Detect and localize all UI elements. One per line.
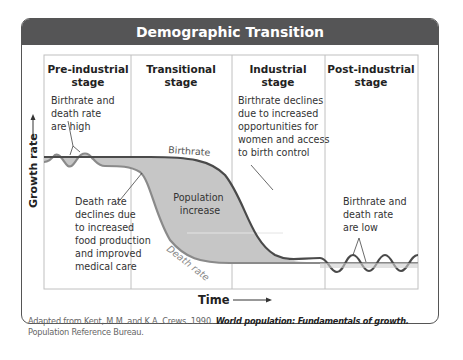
- annotation-birth-decline: Birthrate declines due to increased oppo…: [238, 95, 333, 158]
- annotation-death-decline: Death rate declines due to increased foo…: [75, 196, 154, 272]
- demographic-transition-diagram: Pre-industrialstage Transitionalstage In…: [0, 0, 463, 360]
- x-axis-arrowhead-icon: [266, 298, 272, 303]
- stage-header-industrial: Industrialstage: [249, 63, 306, 88]
- y-axis-label: Growth rate: [27, 133, 40, 208]
- pointer-line: [353, 238, 366, 262]
- post-industrial-band: [320, 263, 418, 268]
- caption-title: World population: Fundamentals of growth…: [216, 316, 409, 326]
- stage-header-transitional: Transitionalstage: [146, 63, 216, 88]
- pointer-line: [70, 146, 73, 155]
- caption-suffix: Population Reference Bureau.: [28, 327, 144, 337]
- source-caption: Adapted from Kent, M.M. and K.A. Crews. …: [28, 316, 428, 338]
- y-axis-arrowhead-icon: [31, 114, 36, 120]
- annotation-post-industrial: Birthrate and death rate are low: [343, 196, 410, 233]
- stage-header-pre-industrial: Pre-industrialstage: [47, 63, 128, 88]
- x-axis-label: Time: [198, 293, 230, 307]
- pointer-line: [251, 165, 273, 190]
- label-birthrate: Birthrate: [168, 144, 211, 158]
- caption-prefix: Adapted from Kent, M.M. and K.A. Crews. …: [28, 316, 216, 326]
- stage-header-post-industrial: Post-industrialstage: [327, 63, 414, 88]
- annotation-pre-industrial: Birthrate and death rate are high: [51, 95, 118, 132]
